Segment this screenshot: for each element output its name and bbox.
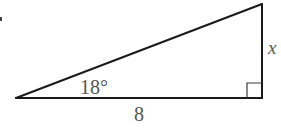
base-length-label: 8 (134, 103, 144, 125)
edge-artifact-mark (0, 17, 2, 21)
right-triangle-diagram: 18° 8 x (0, 0, 281, 133)
right-angle-marker-icon (247, 83, 262, 98)
hypotenuse-edge (16, 4, 262, 98)
angle-label: 18° (80, 76, 108, 98)
height-variable-label: x (267, 37, 277, 58)
